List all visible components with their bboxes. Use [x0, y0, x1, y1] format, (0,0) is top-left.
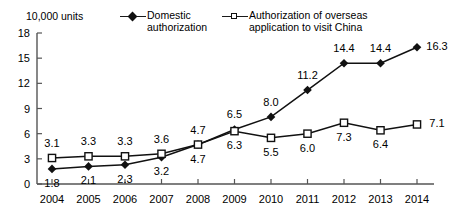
data-label-domestic: 2.3 — [117, 173, 132, 185]
data-label-overseas: 3.1 — [44, 137, 59, 149]
data-label-domestic: 16.3 — [426, 40, 447, 52]
data-label-domestic: 2.1 — [81, 174, 96, 186]
data-label-overseas: 7.3 — [336, 131, 351, 143]
data-label-overseas: 6.4 — [373, 138, 388, 150]
data-label-domestic: 14.4 — [333, 42, 354, 54]
x-axis-tick-label: 2008 — [186, 193, 210, 205]
data-point-overseas — [231, 128, 238, 135]
x-axis-tick-label: 2013 — [368, 193, 392, 205]
data-point-overseas — [85, 153, 92, 160]
data-point-domestic — [413, 43, 422, 52]
data-point-domestic — [376, 59, 385, 68]
data-point-overseas — [194, 141, 201, 148]
data-label-overseas: 3.3 — [117, 135, 132, 147]
y-axis-tick-label: 9 — [10, 103, 30, 115]
data-label-domestic: 6.5 — [227, 108, 242, 120]
y-axis-tick-label: 15 — [10, 52, 30, 64]
data-point-overseas — [158, 150, 165, 157]
chart-figure: 10,000 units Domestic authorization Auth… — [0, 0, 458, 215]
data-point-overseas — [267, 134, 274, 141]
data-label-domestic: 11.2 — [297, 69, 318, 81]
data-label-overseas: 6.3 — [227, 139, 242, 151]
data-label-domestic: 3.2 — [154, 165, 169, 177]
data-label-overseas: 7.1 — [429, 117, 444, 129]
data-label-domestic: 4.7 — [190, 153, 205, 165]
data-point-overseas — [377, 127, 384, 134]
data-label-overseas: 6.0 — [300, 142, 315, 154]
x-axis-tick-label: 2007 — [149, 193, 173, 205]
data-point-overseas — [340, 119, 347, 126]
data-point-overseas — [304, 130, 311, 137]
y-axis-tick-label: 0 — [10, 178, 30, 190]
data-point-domestic — [48, 165, 57, 174]
data-label-overseas: 3.3 — [81, 135, 96, 147]
x-axis-tick-label: 2012 — [332, 193, 356, 205]
data-point-overseas — [413, 121, 420, 128]
data-point-overseas — [48, 154, 55, 161]
x-axis-tick-label: 2005 — [76, 193, 100, 205]
data-label-domestic: 14.4 — [370, 42, 391, 54]
x-axis-tick-label: 2004 — [40, 193, 64, 205]
data-label-overseas: 5.5 — [263, 146, 278, 158]
data-label-overseas: 4.7 — [190, 124, 205, 136]
y-axis-tick-label: 3 — [10, 153, 30, 165]
y-axis-tick-label: 12 — [10, 77, 30, 89]
x-axis-tick-label: 2006 — [113, 193, 137, 205]
data-point-domestic — [121, 160, 130, 169]
x-axis-tick-label: 2009 — [222, 193, 246, 205]
data-label-domestic: 1.8 — [44, 177, 59, 189]
y-axis-tick-label: 6 — [10, 128, 30, 140]
x-axis-tick-label: 2011 — [296, 193, 320, 205]
data-point-domestic — [84, 162, 93, 171]
data-label-overseas: 3.6 — [154, 133, 169, 145]
data-label-domestic: 8.0 — [263, 96, 278, 108]
data-point-overseas — [121, 153, 128, 160]
y-axis-tick-label: 18 — [10, 27, 30, 39]
x-axis-tick-label: 2014 — [405, 193, 429, 205]
x-axis-tick-label: 2010 — [259, 193, 283, 205]
